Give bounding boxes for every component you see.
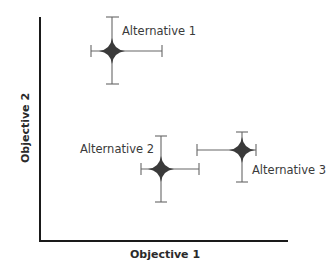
alternative-1-label: Alternative 1 — [122, 24, 196, 38]
alternative-3-label: Alternative 3 — [252, 163, 326, 177]
alternative-3-point — [197, 132, 256, 182]
chart-canvas: Alternative 1 Alternative 2 Alternative … — [0, 0, 332, 269]
star-marker-icon — [148, 156, 174, 182]
y-axis-label: Objective 2 — [19, 93, 32, 163]
x-axis-label: Objective 1 — [130, 248, 200, 261]
star-marker-icon — [99, 38, 125, 64]
star-marker-icon — [229, 137, 255, 163]
alternative-3-errorbars — [197, 132, 256, 182]
alternative-2-label: Alternative 2 — [80, 142, 154, 156]
